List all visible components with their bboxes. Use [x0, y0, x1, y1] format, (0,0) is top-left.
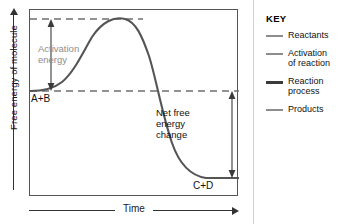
legend-title: KEY	[266, 13, 346, 24]
x-axis-line-left	[29, 210, 115, 211]
legend-label-reactants-line1: Reactants	[288, 30, 329, 40]
reactants-state-label: A+B	[31, 93, 50, 104]
net-free-energy-change-label: Net free energy change	[156, 107, 190, 140]
legend-item-reactants: Reactants	[266, 30, 346, 41]
activation-energy-label-line1: Activation	[38, 43, 79, 54]
x-axis: Time	[29, 203, 241, 219]
legend-label-reaction-process-line2: process	[288, 86, 320, 96]
legend-line-swatch-reactants	[266, 35, 283, 37]
legend-line-swatch-activation	[266, 53, 283, 55]
net-change-line3: change	[156, 129, 187, 140]
legend-label-reaction-process-line1: Reaction	[288, 76, 324, 86]
legend-label-activation: Activation of reaction	[288, 48, 330, 69]
line-icon	[266, 35, 283, 37]
legend-item-activation: Activation of reaction	[266, 48, 346, 69]
plot-graphics	[30, 10, 239, 197]
legend-item-products: Products	[266, 104, 346, 115]
x-axis-label: Time	[115, 203, 153, 214]
legend-label-reactants: Reactants	[288, 30, 329, 41]
panel-divider	[253, 0, 254, 224]
legend-line-swatch-reaction-process	[266, 81, 283, 84]
x-axis-line-right	[153, 210, 233, 211]
legend-label-products: Products	[288, 104, 324, 115]
products-state-label: C+D	[193, 180, 213, 191]
legend-label-products-line1: Products	[288, 104, 324, 114]
line-icon	[266, 109, 283, 111]
line-icon	[266, 53, 283, 55]
y-axis: Free energy of molecule	[0, 0, 26, 200]
legend-key: KEY Reactants Activation of reaction	[266, 13, 346, 121]
net-change-line2: energy	[156, 118, 185, 129]
arrow-right-icon	[232, 207, 239, 215]
legend-label-activation-line1: Activation	[288, 48, 327, 58]
net-free-energy-change-arrow	[229, 91, 236, 178]
legend-label-reaction-process: Reaction process	[288, 76, 324, 97]
legend-item-reaction-process: Reaction process	[266, 76, 346, 97]
legend-line-swatch-products	[266, 109, 283, 111]
net-change-line1: Net free	[156, 107, 190, 118]
energy-diagram-figure: Free energy of molecule	[0, 0, 349, 224]
activation-energy-label-line2: energy	[38, 54, 67, 65]
y-axis-label: Free energy of molecule	[8, 8, 19, 148]
activation-energy-label: Activation energy	[38, 43, 79, 65]
plot-area: Activation energy Net free energy change…	[29, 9, 238, 196]
line-icon	[266, 81, 283, 84]
legend-label-activation-line2: of reaction	[288, 58, 330, 68]
